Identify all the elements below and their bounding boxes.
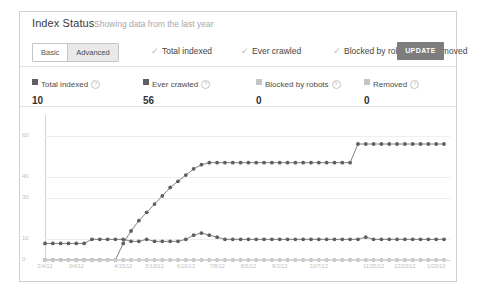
data-point[interactable] [207, 161, 211, 165]
data-point[interactable] [168, 239, 172, 243]
data-point[interactable] [254, 237, 258, 241]
data-point[interactable] [129, 229, 133, 233]
data-point[interactable] [137, 219, 141, 223]
data-point[interactable] [387, 237, 391, 241]
data-point[interactable] [411, 142, 415, 146]
data-point[interactable] [372, 237, 376, 241]
data-point[interactable] [43, 242, 47, 246]
data-point[interactable] [301, 237, 305, 241]
data-point[interactable] [176, 239, 180, 243]
data-point[interactable] [356, 237, 360, 241]
data-point[interactable] [153, 202, 157, 206]
data-point[interactable] [340, 161, 344, 165]
data-point[interactable] [82, 242, 86, 246]
data-point[interactable] [231, 161, 235, 165]
data-point[interactable] [317, 237, 321, 241]
data-point[interactable] [309, 161, 313, 165]
data-point[interactable] [160, 194, 164, 198]
data-point[interactable] [90, 237, 94, 241]
data-point[interactable] [372, 142, 376, 146]
data-point[interactable] [98, 237, 102, 241]
data-point[interactable] [426, 142, 430, 146]
data-point[interactable] [184, 237, 188, 241]
data-point[interactable] [419, 142, 423, 146]
data-point[interactable] [239, 237, 243, 241]
data-point[interactable] [207, 233, 211, 237]
data-point[interactable] [395, 237, 399, 241]
data-point[interactable] [176, 179, 180, 183]
data-point[interactable] [364, 235, 368, 239]
data-point[interactable] [348, 161, 352, 165]
data-point[interactable] [317, 161, 321, 165]
data-point[interactable] [434, 142, 438, 146]
data-point[interactable] [333, 161, 337, 165]
data-point[interactable] [223, 161, 227, 165]
data-point[interactable] [380, 142, 384, 146]
help-icon[interactable]: ? [332, 80, 341, 89]
data-point[interactable] [153, 239, 157, 243]
data-point[interactable] [114, 237, 118, 241]
data-point[interactable] [200, 163, 204, 167]
data-point[interactable] [247, 237, 251, 241]
data-point[interactable] [192, 167, 196, 171]
data-point[interactable] [51, 242, 55, 246]
data-point[interactable] [121, 242, 125, 246]
data-point[interactable] [247, 161, 251, 165]
data-point[interactable] [387, 142, 391, 146]
series-checkbox-total-indexed[interactable]: ✓Total indexed [151, 46, 212, 56]
help-icon[interactable]: ? [201, 80, 210, 89]
data-point[interactable] [192, 233, 196, 237]
data-point[interactable] [309, 237, 313, 241]
data-point[interactable] [293, 237, 297, 241]
help-icon[interactable]: ? [410, 80, 419, 89]
data-point[interactable] [59, 242, 63, 246]
data-point[interactable] [239, 161, 243, 165]
series-checkbox-ever-crawled[interactable]: ✓Ever crawled [241, 46, 301, 56]
data-point[interactable] [419, 237, 423, 241]
data-point[interactable] [67, 242, 71, 246]
data-point[interactable] [262, 161, 266, 165]
data-point[interactable] [184, 173, 188, 177]
data-point[interactable] [262, 237, 266, 241]
help-icon[interactable]: ? [91, 80, 100, 89]
data-point[interactable] [231, 237, 235, 241]
data-point[interactable] [340, 237, 344, 241]
data-point[interactable] [106, 237, 110, 241]
data-point[interactable] [442, 237, 446, 241]
view-mode-basic-button[interactable]: Basic [33, 44, 68, 61]
data-point[interactable] [145, 237, 149, 241]
data-point[interactable] [137, 239, 141, 243]
data-point[interactable] [286, 161, 290, 165]
data-point[interactable] [325, 161, 329, 165]
data-point[interactable] [293, 161, 297, 165]
data-point[interactable] [215, 161, 219, 165]
data-point[interactable] [145, 210, 149, 214]
data-point[interactable] [411, 237, 415, 241]
data-point[interactable] [278, 237, 282, 241]
data-point[interactable] [364, 142, 368, 146]
data-point[interactable] [434, 237, 438, 241]
data-point[interactable] [442, 142, 446, 146]
data-point[interactable] [74, 242, 78, 246]
data-point[interactable] [129, 239, 133, 243]
data-point[interactable] [325, 237, 329, 241]
view-mode-advanced-button[interactable]: Advanced [68, 44, 117, 61]
data-point[interactable] [168, 186, 172, 190]
data-point[interactable] [380, 237, 384, 241]
data-point[interactable] [403, 142, 407, 146]
data-point[interactable] [223, 237, 227, 241]
data-point[interactable] [333, 237, 337, 241]
data-point[interactable] [215, 235, 219, 239]
data-point[interactable] [270, 161, 274, 165]
data-point[interactable] [200, 231, 204, 235]
data-point[interactable] [348, 237, 352, 241]
data-point[interactable] [278, 161, 282, 165]
view-mode-segmented-control[interactable]: BasicAdvanced [32, 43, 119, 62]
data-point[interactable] [286, 237, 290, 241]
data-point[interactable] [426, 237, 430, 241]
data-point[interactable] [356, 142, 360, 146]
data-point[interactable] [254, 161, 258, 165]
data-point[interactable] [301, 161, 305, 165]
update-button[interactable]: UPDATE [397, 42, 444, 60]
data-point[interactable] [270, 237, 274, 241]
